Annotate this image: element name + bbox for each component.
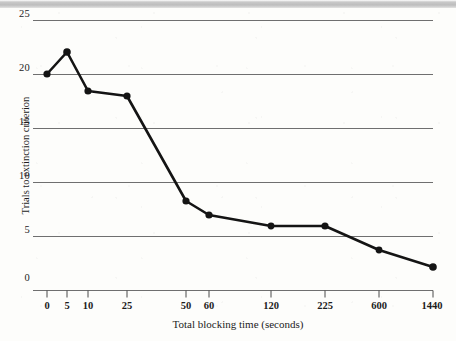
data-point-1440 (429, 263, 437, 271)
line-chart-figure: 25 20 15 10 5 0 0 5 10 25 50 60 120 225 … (0, 0, 456, 341)
x-tick-label-10: 10 (68, 300, 108, 311)
chart-canvas (0, 0, 456, 341)
data-point-10 (84, 87, 91, 94)
data-point-60 (205, 211, 212, 218)
data-line-series-1 (47, 52, 433, 267)
x-tick-label-600: 600 (359, 300, 399, 311)
x-tick-label-60: 60 (189, 300, 229, 311)
data-point-120 (268, 223, 275, 230)
data-point-225 (321, 222, 328, 229)
y-tick-label-0: 0 (8, 272, 30, 283)
data-point-25 (123, 92, 130, 99)
data-point-600 (376, 247, 383, 254)
y-tick-label-25: 25 (8, 8, 30, 19)
x-tick-label-1440: 1440 (412, 300, 452, 311)
y-axis-title: Trials to extinction criterion (20, 71, 31, 241)
gridlines (33, 21, 433, 237)
data-point-markers (43, 48, 436, 271)
x-tick-label-225: 225 (305, 300, 345, 311)
x-tick-label-120: 120 (251, 300, 291, 311)
data-point-0 (43, 70, 50, 77)
x-tick-label-25: 25 (107, 300, 147, 311)
data-point-50 (182, 197, 189, 204)
x-axis-ticks (47, 291, 433, 298)
data-point-5 (63, 48, 71, 56)
x-axis-title: Total blocking time (seconds) (88, 318, 388, 330)
